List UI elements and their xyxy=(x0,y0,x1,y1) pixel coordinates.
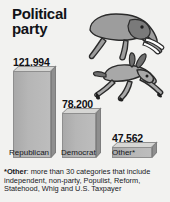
page-title-line-2: party xyxy=(12,21,92,36)
bar-republican: 121,994 xyxy=(13,71,51,158)
category-axis: Republican Democrat Other* xyxy=(0,148,170,162)
bar-front-face xyxy=(13,71,51,158)
footnote: *Other: more than 30 categories that inc… xyxy=(4,168,166,194)
category-label-democrat: Democrat xyxy=(61,148,96,157)
bar-shape-republican xyxy=(13,71,51,158)
bar-chart-plot: 121,994 78,200 47,562 xyxy=(0,58,170,158)
category-label-other: Other* xyxy=(112,148,135,157)
page-title: Political party xyxy=(12,6,92,36)
political-party-infographic: Political party xyxy=(0,0,170,202)
bar-side-face xyxy=(51,65,56,158)
category-label-republican: Republican xyxy=(9,148,49,157)
